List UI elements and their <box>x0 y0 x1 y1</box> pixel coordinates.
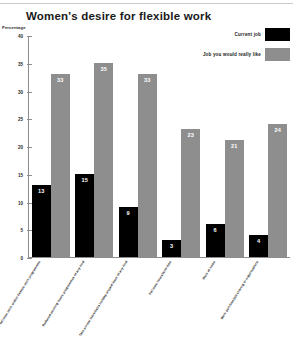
bar-value-label: 3 <box>162 243 181 249</box>
bar-group: 1535 <box>73 36 117 257</box>
bar-value-label: 9 <box>119 210 138 216</box>
bar-desired-job: 35 <box>94 63 113 257</box>
x-category: Smooth hours for full-time work and/or f… <box>29 259 73 302</box>
bar-value-label: 33 <box>51 77 70 83</box>
x-category-label: Work at home <box>201 260 216 281</box>
bar-value-label: 33 <box>138 77 157 83</box>
bar-current-job: 3 <box>162 240 181 257</box>
bar-current-job: 6 <box>206 224 225 257</box>
bar-group: 424 <box>247 36 291 257</box>
y-tick-label: 15 <box>18 172 23 177</box>
y-tick-label: 10 <box>18 200 23 205</box>
bar-value-label: 35 <box>94 66 113 72</box>
bar-group: 323 <box>160 36 204 257</box>
bar-group: 1333 <box>29 36 73 257</box>
x-category: Work part-time/job sharing or organisati… <box>247 259 291 302</box>
bar-value-label: 21 <box>225 143 244 149</box>
y-tick-label: 25 <box>18 117 23 122</box>
y-axis-label: Percentage <box>2 25 26 30</box>
plot-area: 0510152025303540 13331535933323621424 <box>28 36 290 258</box>
bar-group: 933 <box>116 36 160 257</box>
x-category-label: Smooth hours for full-time work and/or f… <box>0 260 41 340</box>
y-tick-label: 35 <box>18 61 23 66</box>
bar-desired-job: 21 <box>225 140 244 257</box>
chart-title: Women's desire for flexible work <box>26 10 211 22</box>
bar-desired-job: 33 <box>51 74 70 257</box>
bar-desired-job: 23 <box>181 129 200 257</box>
x-category: Reduced working hours programmes of any … <box>73 259 117 302</box>
bar-value-label: 24 <box>268 127 287 133</box>
bar-current-job: 13 <box>32 185 51 257</box>
y-tick-label: 0 <box>20 256 23 261</box>
y-tick-label: 40 <box>18 34 23 39</box>
x-axis-line <box>28 257 290 258</box>
bar-current-job: 15 <box>75 174 94 257</box>
bar-group: 621 <box>203 36 247 257</box>
bar-value-label: 15 <box>75 177 94 183</box>
bar-groups: 13331535933323621424 <box>29 36 290 257</box>
bar-value-label: 6 <box>206 227 225 233</box>
y-tick-label: 20 <box>18 145 23 150</box>
bar-current-job: 9 <box>119 207 138 257</box>
bar-current-job: 4 <box>249 235 268 257</box>
bar-value-label: 13 <box>32 188 51 194</box>
y-tick-label: 5 <box>20 228 23 233</box>
bar-value-label: 23 <box>181 132 200 138</box>
x-axis-categories: Smooth hours for full-time work and/or f… <box>29 259 291 302</box>
x-category: Take annual leave/extra holiday unpaid l… <box>116 259 160 302</box>
x-category: Full-time hours/term-time <box>160 259 204 302</box>
bar-desired-job: 24 <box>268 124 287 257</box>
bar-desired-job: 33 <box>138 74 157 257</box>
y-tick-label: 30 <box>18 89 23 94</box>
bar-value-label: 4 <box>249 238 268 244</box>
header-divider <box>0 3 293 4</box>
x-category: Work at home <box>204 259 248 302</box>
